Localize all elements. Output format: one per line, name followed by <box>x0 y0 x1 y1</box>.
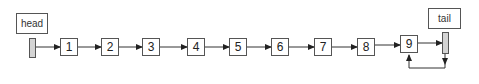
node-value: 8 <box>363 40 370 54</box>
list-node-2: 2 <box>101 38 119 56</box>
node-value: 9 <box>406 37 413 51</box>
tail-pointer <box>442 32 449 54</box>
node-value: 2 <box>107 40 114 54</box>
list-node-6: 6 <box>271 38 289 56</box>
head-label: head <box>21 18 43 29</box>
list-node-4: 4 <box>187 38 205 56</box>
node-value: 4 <box>193 40 200 54</box>
head-pointer <box>29 38 36 58</box>
node-value: 1 <box>66 40 73 54</box>
list-node-3: 3 <box>142 38 160 56</box>
node-value: 6 <box>277 40 284 54</box>
head-label-box: head <box>16 13 48 34</box>
node-value: 7 <box>320 40 327 54</box>
list-node-5: 5 <box>229 38 247 56</box>
list-node-8: 8 <box>357 38 375 56</box>
node-value: 3 <box>148 40 155 54</box>
tail-label: tail <box>438 13 451 24</box>
node-value: 5 <box>235 40 242 54</box>
list-node-1: 1 <box>60 38 78 56</box>
list-node-7: 7 <box>314 38 332 56</box>
tail-label-box: tail <box>428 8 461 29</box>
list-node-9: 9 <box>400 35 418 53</box>
